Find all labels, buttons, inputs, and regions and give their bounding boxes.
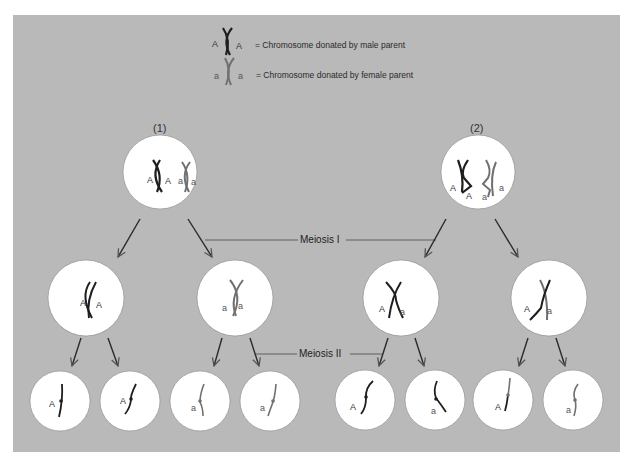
- mid2-allele-2: a: [238, 302, 243, 311]
- gamete-5: [335, 370, 395, 430]
- gamete2-allele: A: [120, 397, 126, 406]
- legend-female-right-allele: a: [238, 72, 243, 81]
- legend-male-chromosome-icon: [223, 28, 232, 55]
- gamete6-allele: a: [431, 407, 436, 416]
- mid4-allele-2: a: [547, 307, 552, 316]
- meiosis1-cell-3: [363, 260, 439, 336]
- gamete1-allele: A: [49, 400, 55, 409]
- legend-male-text: = Chromosome donated by male parent: [255, 41, 405, 50]
- mid3-allele-1: A: [379, 305, 385, 314]
- gamete5-allele: A: [350, 403, 356, 412]
- legend-female-chromosome-icon: [225, 58, 234, 85]
- cell1-allele-3: a: [178, 177, 183, 186]
- cell2-allele-3: a: [482, 193, 487, 202]
- gamete8-allele: a: [566, 406, 571, 415]
- cell1-allele-4: a: [191, 178, 196, 187]
- parent-cell-2: [441, 135, 515, 209]
- mid4-allele-1: A: [524, 305, 530, 314]
- cell2-allele-2: A: [466, 192, 472, 201]
- legend-male-left-allele: A: [212, 40, 218, 49]
- cell2-allele-1: A: [450, 184, 456, 193]
- mid1-allele-2: A: [96, 301, 102, 310]
- gamete-7: [473, 370, 533, 430]
- legend-female-left-allele: a: [214, 72, 219, 81]
- legend-male-right-allele: A: [236, 42, 242, 51]
- cell2-allele-4: a: [499, 184, 504, 193]
- mid2-allele-1: a: [222, 304, 227, 313]
- cell1-allele-1: A: [147, 176, 153, 185]
- mid1-allele-1: A: [80, 299, 86, 308]
- mid3-allele-2: a: [400, 308, 405, 317]
- meiosis-diagram: [0, 0, 631, 460]
- case-1-label: (1): [153, 123, 166, 134]
- legend-female-text: = Chromosome donated by female parent: [256, 71, 413, 80]
- meiosis-2-label: Meiosis II: [297, 349, 343, 359]
- gamete7-allele: A: [495, 403, 501, 412]
- gamete3-allele: a: [191, 404, 196, 413]
- meiosis-1-label: Meiosis I: [298, 235, 341, 245]
- meiosis1-cell-4: [511, 260, 587, 336]
- cell1-allele-2: A: [165, 177, 171, 186]
- gamete-4: [240, 371, 300, 431]
- gamete-8: [543, 370, 603, 430]
- case-2-label: (2): [470, 123, 483, 134]
- gamete4-allele: a: [260, 404, 265, 413]
